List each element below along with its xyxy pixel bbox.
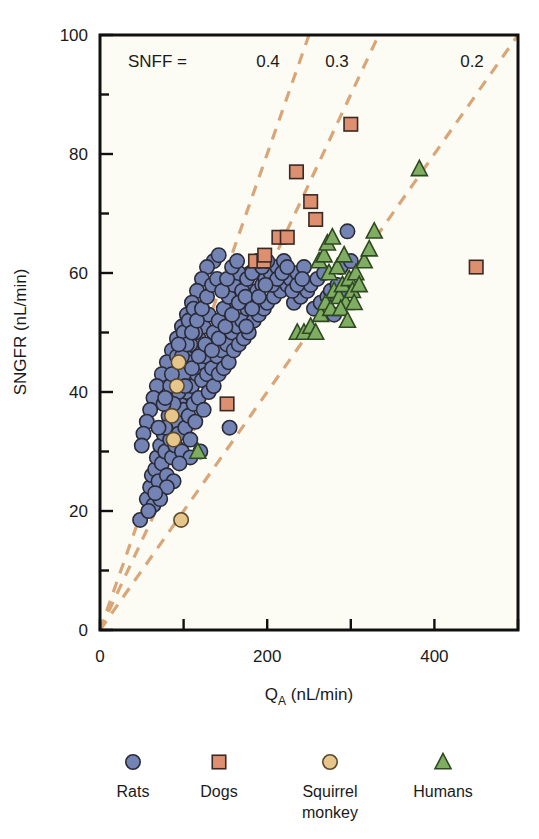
x-tick-label: 200 (253, 647, 281, 666)
data-point (171, 355, 185, 369)
data-point (258, 248, 272, 262)
data-point (230, 254, 244, 268)
snff-value-label-0.3: 0.3 (325, 52, 349, 71)
data-point (174, 513, 188, 527)
x-title-subscript: A (278, 694, 286, 708)
data-point (281, 231, 295, 245)
legend-marker-circle-icon (126, 755, 140, 769)
legend-item-humans[interactable]: Humans (413, 753, 473, 800)
legend-label-line2: monkey (302, 804, 358, 821)
data-point (340, 224, 354, 238)
legend-label: Rats (117, 783, 150, 800)
data-point (344, 118, 358, 132)
data-point (158, 391, 172, 405)
y-tick-label: 100 (60, 26, 88, 45)
data-point (135, 438, 149, 452)
scatter-chart: 0200400020406080100 SNFF =0.40.30.2 QA (… (0, 0, 539, 839)
data-point (239, 319, 253, 333)
data-point (148, 486, 162, 500)
data-point (141, 504, 155, 518)
y-tick-label: 60 (69, 264, 88, 283)
y-tick-label: 0 (79, 621, 88, 640)
data-point (151, 421, 165, 435)
legend-label: Humans (413, 783, 473, 800)
snff-value-label-0.4: 0.4 (256, 52, 280, 71)
snff-value-label-0.2: 0.2 (460, 52, 484, 71)
data-point (166, 432, 180, 446)
data-point (170, 379, 184, 393)
data-point (304, 195, 318, 209)
data-point (222, 421, 236, 435)
y-tick-label: 80 (69, 145, 88, 164)
y-tick-label: 20 (69, 502, 88, 521)
data-point (172, 456, 186, 470)
legend-item-squirrel[interactable]: Squirrelmonkey (302, 755, 358, 821)
data-point (309, 213, 323, 227)
legend-label: Dogs (200, 783, 237, 800)
legend-item-rats[interactable]: Rats (117, 755, 150, 800)
data-point (212, 248, 226, 262)
x-title-main: Q (265, 685, 278, 704)
data-point (258, 278, 272, 292)
data-point (171, 337, 185, 351)
data-point (183, 432, 197, 446)
figure-container: 0200400020406080100 SNFF =0.40.30.2 QA (… (0, 0, 539, 839)
data-point (220, 397, 234, 411)
data-point (290, 165, 304, 179)
legend-marker-square-icon (212, 755, 226, 769)
legend-label: Squirrel (302, 783, 357, 800)
x-tick-label: 0 (95, 647, 104, 666)
y-tick-label: 40 (69, 383, 88, 402)
data-point (469, 260, 483, 274)
data-point (165, 409, 179, 423)
snff-prefix-label: SNFF = (128, 52, 187, 71)
x-axis-title: QA (nL/min) (265, 685, 353, 708)
legend-marker-circle-icon (323, 755, 337, 769)
x-title-units: (nL/min) (286, 685, 353, 704)
legend-item-dogs[interactable]: Dogs (200, 755, 237, 800)
data-point (295, 272, 309, 286)
y-axis-title: SNGFR (nL/min) (11, 269, 30, 396)
x-tick-label: 400 (420, 647, 448, 666)
legend-marker-triangle-icon (435, 753, 451, 768)
legend-group: RatsDogsSquirrelmonkeyHumans (117, 753, 473, 821)
data-point (196, 403, 210, 417)
data-point (280, 260, 294, 274)
